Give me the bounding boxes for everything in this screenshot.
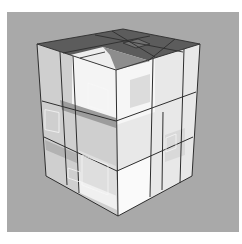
cube-model <box>0 0 242 244</box>
